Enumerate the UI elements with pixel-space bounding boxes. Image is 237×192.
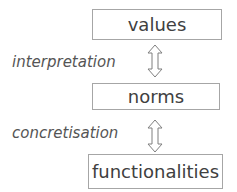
values-box: values — [92, 9, 222, 40]
double-arrow-icon — [147, 119, 163, 153]
values-label: values — [128, 14, 187, 35]
functionalities-box: functionalities — [88, 154, 223, 189]
interpretation-label: interpretation — [12, 53, 116, 71]
norms-label: norms — [128, 86, 184, 107]
norms-box: norms — [92, 83, 220, 110]
concretisation-label: concretisation — [12, 124, 118, 142]
functionalities-label: functionalities — [92, 161, 219, 182]
double-arrow-icon — [147, 44, 163, 78]
